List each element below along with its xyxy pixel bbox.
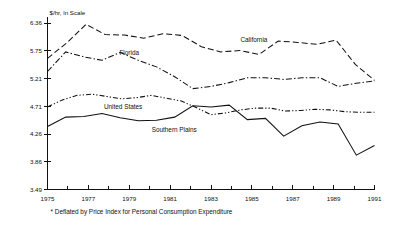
series-line-southern-plains <box>48 105 375 155</box>
series-label-southern-plains: Southern Plains <box>152 126 197 133</box>
y-tick-label: 3.86 <box>30 158 43 165</box>
chart-figure: 6.365.755.214.714.263.863.49197519771979… <box>0 0 393 229</box>
series-line-california <box>48 24 375 80</box>
x-tick-label: 1977 <box>81 195 95 202</box>
x-tick-label: 1983 <box>204 195 218 202</box>
x-tick-label: 1985 <box>245 195 259 202</box>
x-tick-label: 1987 <box>286 195 300 202</box>
x-tick-label: 1979 <box>122 195 136 202</box>
y-tick-label: 4.26 <box>30 130 43 137</box>
series-label-florida: Florida <box>119 49 139 56</box>
y-axis-title: $/hr, ln Scale <box>50 9 86 16</box>
x-tick-label: 1989 <box>327 195 341 202</box>
series-line-florida <box>48 52 375 89</box>
series-label-united-states: United States <box>104 103 142 110</box>
y-tick-label: 4.71 <box>30 103 43 110</box>
y-tick-label: 5.21 <box>30 75 43 82</box>
series-line-united-states <box>48 94 375 114</box>
line-chart: 6.365.755.214.714.263.863.49197519771979… <box>0 0 393 229</box>
y-tick-label: 6.36 <box>30 19 43 26</box>
series-label-california: California <box>240 36 267 43</box>
y-tick-label: 5.75 <box>30 47 43 54</box>
x-tick-label: 1991 <box>368 195 382 202</box>
x-tick-label: 1975 <box>41 195 55 202</box>
chart-footnote: * Deflated by Price Index for Personal C… <box>51 208 233 216</box>
x-tick-label: 1981 <box>163 195 177 202</box>
y-tick-label: 3.49 <box>30 186 43 193</box>
